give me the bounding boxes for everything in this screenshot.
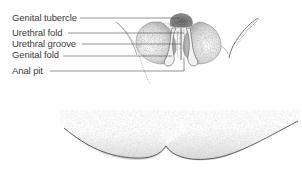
label-anal-pit: Anal pit [12,65,43,76]
label-urethral-groove: Urethral groove [12,38,76,49]
label-genital-tubercle: Genital tubercle [12,12,77,23]
label-urethral-fold: Urethral fold [12,27,62,38]
anatomy-illustration [0,0,302,173]
perineal-region [55,110,302,165]
diagram-canvas: Genital tubercle Urethral fold Urethral … [0,0,302,173]
label-genital-fold: Genital fold [12,49,59,60]
